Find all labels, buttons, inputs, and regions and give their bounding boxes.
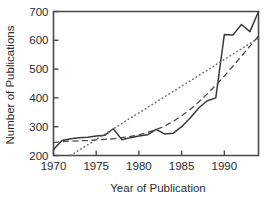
data-series-layer xyxy=(54,12,259,156)
x-tick-label-1975: 1975 xyxy=(83,160,109,172)
y-axis-title: Number of Publications xyxy=(4,25,16,144)
x-axis-title: Year of Publication xyxy=(110,182,205,194)
chart-container: 200300400500600700 19701975198019851990 … xyxy=(0,0,275,200)
y-tick-label-700: 700 xyxy=(29,6,48,18)
y-tick-label-400: 400 xyxy=(29,92,48,104)
series-dotted xyxy=(71,38,259,155)
x-axis-tick-labels: 19701975198019851990 xyxy=(41,160,237,172)
y-tick-label-600: 600 xyxy=(29,34,48,46)
y-tick-label-500: 500 xyxy=(29,63,48,75)
x-tick-label-1980: 1980 xyxy=(126,160,152,172)
y-axis-tick-labels: 200300400500600700 xyxy=(29,6,48,162)
series-solid xyxy=(54,12,259,150)
y-tick-label-300: 300 xyxy=(29,121,48,133)
plot-frame xyxy=(54,12,259,156)
x-tick-label-1985: 1985 xyxy=(169,160,195,172)
plot-box xyxy=(54,12,259,156)
x-tick-label-1990: 1990 xyxy=(212,160,238,172)
series-dashed xyxy=(54,36,259,143)
publications-line-chart: 200300400500600700 19701975198019851990 … xyxy=(0,0,275,200)
x-tick-label-1970: 1970 xyxy=(41,160,67,172)
